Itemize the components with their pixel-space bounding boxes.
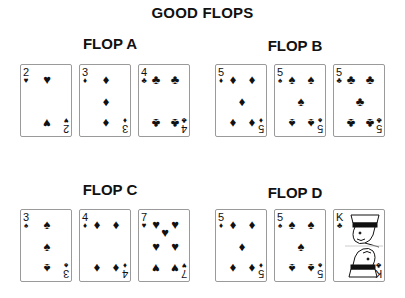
card-flop-b-2: 5♠5♠♠♠♠♠♠ [274, 64, 326, 137]
clubs-pip-icon: ♣ [171, 117, 180, 130]
card-flop-d-1: 5♦5♦♦♦♦♦♦ [215, 209, 267, 282]
hearts-pip-icon: ♥ [171, 218, 179, 231]
diamonds-pip-icon: ♦ [249, 117, 256, 130]
spades-icon: ♠ [278, 77, 282, 85]
diamonds-pip-icon: ♦ [103, 73, 110, 86]
spades-pip-icon: ♠ [289, 262, 296, 275]
clubs-pip-icon: ♣ [366, 117, 375, 130]
hearts-icon: ♥ [64, 116, 69, 124]
clubs-pip-icon: ♣ [152, 73, 161, 86]
diamonds-pip-icon: ♦ [249, 73, 256, 86]
diamonds-icon: ♦ [219, 77, 223, 85]
diamonds-pip-icon: ♦ [103, 117, 110, 130]
diamonds-pip-icon: ♦ [113, 218, 120, 231]
diamonds-pip-icon: ♦ [230, 218, 237, 231]
diamonds-icon: ♦ [259, 261, 263, 269]
spades-pip-icon: ♠ [44, 262, 51, 275]
card-flop-b-1: 5♦5♦♦♦♦♦♦ [215, 64, 267, 137]
card-flop-b-3: 5♣5♣♣♣♣♣♣ [333, 64, 385, 137]
spades-pip-icon: ♠ [308, 73, 315, 86]
diamonds-pip-icon: ♦ [113, 262, 120, 275]
hearts-pip-icon: ♥ [171, 262, 179, 275]
clubs-pip-icon: ♣ [347, 117, 356, 130]
card-flop-a-2: 3♦3♦♦♦♦ [79, 64, 131, 137]
card-corner-index: 3♠ [63, 261, 69, 279]
diamonds-pip-icon: ♦ [239, 240, 246, 253]
hearts-icon: ♥ [182, 261, 187, 269]
card-corner-index: 5♠ [317, 261, 323, 279]
card-corner-index: 5♣ [376, 116, 382, 134]
card-corner-index: 4♣ [141, 67, 147, 85]
card-corner-index: 7♥ [141, 212, 147, 230]
spades-icon: ♠ [24, 222, 28, 230]
clubs-pip-icon: ♣ [356, 95, 365, 108]
hearts-pip-icon: ♥ [43, 73, 51, 86]
clubs-pip-icon: ♣ [152, 117, 161, 130]
clubs-icon: ♣ [336, 77, 341, 85]
diamonds-icon: ♦ [219, 222, 223, 230]
diamonds-icon: ♦ [83, 222, 87, 230]
flop-b-label: FLOP B [235, 37, 355, 54]
diamonds-icon: ♦ [123, 261, 127, 269]
spades-icon: ♠ [318, 261, 322, 269]
flop-d-label: FLOP D [235, 184, 355, 201]
diamonds-pip-icon: ♦ [230, 262, 237, 275]
diamonds-pip-icon: ♦ [103, 95, 110, 108]
hearts-pip-icon: ♥ [161, 226, 169, 239]
clubs-pip-icon: ♣ [366, 73, 375, 86]
card-flop-a-3: 4♣4♣♣♣♣♣ [138, 64, 190, 137]
card-corner-index: 5♦ [218, 212, 224, 230]
card-corner-index: 5♠ [277, 67, 283, 85]
clubs-pip-icon: ♣ [171, 73, 180, 86]
card-corner-index: 5♠ [277, 212, 283, 230]
card-flop-d-2: 5♠5♠♠♠♠♠♠ [274, 209, 326, 282]
hearts-icon: ♥ [142, 222, 147, 230]
card-corner-index: 4♦ [122, 261, 128, 279]
card-corner-index: 5♦ [258, 261, 264, 279]
spades-pip-icon: ♠ [298, 240, 305, 253]
card-corner-index: 5♠ [317, 116, 323, 134]
spades-icon: ♠ [318, 116, 322, 124]
spades-icon: ♠ [64, 261, 68, 269]
card-corner-index: K♣ [336, 212, 343, 230]
card-corner-index: 2♥ [23, 67, 29, 85]
diamonds-pip-icon: ♦ [94, 218, 101, 231]
card-corner-index: 3♦ [82, 67, 88, 85]
spades-pip-icon: ♠ [308, 262, 315, 275]
card-corner-index: 4♦ [82, 212, 88, 230]
clubs-icon: ♣ [181, 116, 186, 124]
card-corner-index: 5♦ [258, 116, 264, 134]
spades-pip-icon: ♠ [308, 117, 315, 130]
card-flop-a-1: 2♥2♥♥♥ [20, 64, 72, 137]
card-corner-index: 5♣ [336, 67, 342, 85]
spades-pip-icon: ♠ [44, 218, 51, 231]
hearts-icon: ♥ [24, 77, 29, 85]
clubs-icon: ♣ [376, 116, 381, 124]
diamonds-pip-icon: ♦ [239, 95, 246, 108]
card-flop-c-3: 7♥7♥♥♥♥♥♥♥♥ [138, 209, 190, 282]
hearts-pip-icon: ♥ [43, 117, 51, 130]
card-flop-d-3: K♣K♣ [333, 209, 385, 282]
flop-a-label: FLOP A [50, 35, 170, 52]
hearts-pip-icon: ♥ [152, 262, 160, 275]
card-flop-c-1: 3♠3♠♠♠♠ [20, 209, 72, 282]
hearts-pip-icon: ♥ [152, 240, 160, 253]
clubs-icon: ♣ [141, 77, 146, 85]
spades-pip-icon: ♠ [308, 218, 315, 231]
king-portrait-icon [345, 213, 383, 279]
hearts-pip-icon: ♥ [171, 240, 179, 253]
diamonds-pip-icon: ♦ [249, 262, 256, 275]
clubs-pip-icon: ♣ [347, 73, 356, 86]
diamonds-icon: ♦ [83, 77, 87, 85]
spades-pip-icon: ♠ [44, 240, 51, 253]
card-corner-index: 3♦ [122, 116, 128, 134]
card-corner-index: 4♣ [181, 116, 187, 134]
spades-icon: ♠ [278, 222, 282, 230]
diamonds-pip-icon: ♦ [94, 262, 101, 275]
diamonds-pip-icon: ♦ [230, 73, 237, 86]
card-flop-c-2: 4♦4♦♦♦♦♦ [79, 209, 131, 282]
clubs-icon: ♣ [337, 222, 342, 230]
diamonds-pip-icon: ♦ [249, 218, 256, 231]
flop-c-label: FLOP C [50, 181, 170, 198]
card-corner-index: 3♠ [23, 212, 29, 230]
